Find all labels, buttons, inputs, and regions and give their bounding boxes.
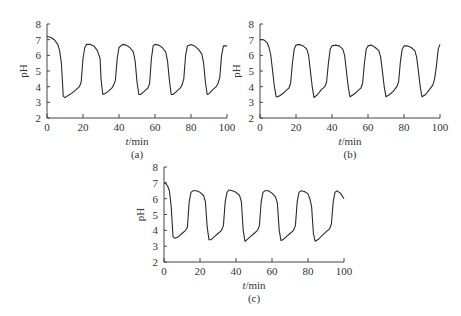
- x-tick-label: 60: [363, 121, 375, 133]
- x-tick-label: 0: [257, 121, 263, 133]
- x-tick-label: 80: [303, 265, 315, 277]
- chart-panel-c: 2345678020406080100pHt/min(c): [117, 143, 357, 316]
- y-tick-label: 5: [153, 209, 159, 221]
- chart-panel-b: 2345678020406080100pHt/min(b): [213, 0, 461, 160]
- y-tick-label: 8: [153, 161, 159, 173]
- panel-caption: (c): [248, 292, 261, 305]
- x-tick-label: 20: [195, 265, 207, 277]
- y-tick-label: 3: [249, 96, 255, 108]
- x-tick-label: 80: [186, 121, 198, 133]
- y-tick-label: 6: [153, 193, 159, 205]
- y-axis-label: pH: [134, 208, 146, 222]
- y-tick-label: 2: [36, 112, 42, 124]
- y-tick-label: 3: [36, 96, 42, 108]
- y-tick-label: 4: [249, 81, 255, 93]
- y-tick-label: 3: [153, 240, 159, 252]
- ph-series-line: [164, 183, 344, 242]
- y-tick-label: 2: [249, 112, 255, 124]
- y-tick-label: 4: [36, 81, 42, 93]
- axes: 2345678020406080100: [153, 161, 353, 277]
- y-tick-label: 4: [153, 224, 159, 236]
- x-tick-label: 40: [114, 121, 126, 133]
- y-tick-label: 6: [36, 49, 42, 61]
- y-tick-label: 7: [249, 34, 255, 46]
- x-tick-label: 20: [291, 121, 303, 133]
- chart-panel-a: 2345678020406080100pHt/min(a): [0, 0, 235, 160]
- y-tick-label: 7: [153, 177, 159, 189]
- y-tick-label: 7: [36, 34, 42, 46]
- ph-series-line: [47, 37, 227, 98]
- x-tick-label: 40: [231, 265, 243, 277]
- x-tick-label: 60: [267, 265, 279, 277]
- chart-c-svg: 2345678020406080100pHt/min(c): [117, 143, 357, 316]
- y-tick-label: 5: [36, 65, 42, 77]
- x-tick-label: 40: [327, 121, 339, 133]
- x-tick-label: 100: [432, 121, 449, 133]
- chart-a-svg: 2345678020406080100pHt/min(a): [0, 0, 235, 160]
- x-tick-label: 100: [336, 265, 353, 277]
- y-tick-label: 6: [249, 49, 255, 61]
- x-axis-label: t/min: [242, 279, 266, 291]
- y-tick-label: 8: [249, 18, 255, 30]
- y-axis-label: pH: [17, 64, 29, 78]
- x-tick-label: 80: [399, 121, 411, 133]
- y-tick-label: 2: [153, 256, 159, 268]
- x-tick-label: 0: [161, 265, 167, 277]
- y-tick-label: 5: [249, 65, 255, 77]
- chart-b-svg: 2345678020406080100pHt/min(b): [213, 0, 461, 160]
- ph-series-line: [260, 40, 440, 98]
- x-tick-label: 20: [78, 121, 90, 133]
- x-tick-label: 60: [150, 121, 162, 133]
- y-tick-label: 8: [36, 18, 42, 30]
- y-axis-label: pH: [230, 64, 242, 78]
- x-tick-label: 0: [44, 121, 50, 133]
